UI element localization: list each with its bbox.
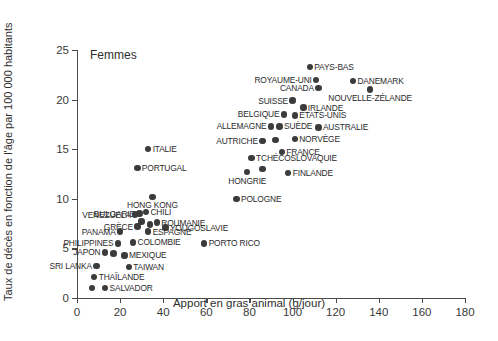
data-point [132,211,138,217]
y-tick-label: 15 [56,143,69,155]
data-point [313,77,319,83]
data-point [268,123,274,129]
data-point [126,264,132,270]
data-point [244,169,250,175]
data-point-label: SUÈDE [284,121,312,131]
data-point [285,170,291,176]
data-point [201,240,207,246]
x-tick-label: 40 [157,306,170,318]
data-point [281,111,287,117]
data-point [276,123,282,129]
x-tick [336,298,337,303]
x-tick [249,298,250,303]
data-point-label: HONGRIE [228,176,266,186]
x-tick-label: 160 [412,306,431,318]
y-tick-label: 20 [56,94,69,106]
data-point [117,228,123,234]
data-point-label: TAIWAN [133,262,164,272]
data-point-label: COLOMBIE [138,237,181,247]
scatter-chart-figure: Taux de décès en fonction de l'âge par 1… [0,0,498,341]
x-tick-label: 180 [455,306,474,318]
data-point-label: PAYS-BAS [314,62,353,72]
data-point-label: ITALIE [153,144,177,154]
data-point [145,146,151,152]
data-point [102,285,108,291]
data-point [110,250,116,256]
x-tick [206,298,207,303]
y-axis-title: Taux de décès en fonction de l'âge par 1… [2,41,14,301]
data-point [259,166,265,172]
data-point-label: CHILI [150,207,171,217]
data-point-label: CANADA [280,83,314,93]
x-tick-label: 140 [369,306,388,318]
data-point [138,218,144,224]
x-tick-label: 120 [326,306,345,318]
data-point-label: VENEZUELA [82,210,130,220]
data-point-label: SUISSE [258,96,288,106]
x-tick [293,298,294,303]
data-point [292,136,298,142]
data-point-label: TCHÉCOSLOVAQUIE [256,153,337,163]
data-point [143,209,149,215]
data-point [350,78,356,84]
x-tick [120,298,121,303]
data-point-label: SRI LANKA [49,261,91,271]
y-tick-label: 0 [63,292,69,304]
x-tick [422,298,423,303]
y-tick-label: 25 [56,44,69,56]
data-point [307,64,313,70]
y-tick [72,100,77,101]
y-tick [72,199,77,200]
data-point-label: POLOGNE [241,194,281,204]
data-point-label: PANAMA [82,227,116,237]
plot-area: 0510152025 020406080100120140160180 PAYS… [77,50,465,298]
data-point-label: PORTO RICO [209,238,260,248]
data-point [248,155,254,161]
data-point [233,196,239,202]
data-point [292,112,298,118]
x-tick-label: 80 [243,306,256,318]
data-point [154,219,160,225]
data-point-label: AUSTRALIE [323,122,368,132]
data-point [93,263,99,269]
data-point-label: MEXIQUE [129,250,167,260]
data-point [89,285,95,291]
x-tick-label: 60 [200,306,213,318]
data-point-label: DANEMARK [357,76,403,86]
data-point [272,137,278,143]
data-point-label: FINLANDE [293,168,333,178]
data-point-label: JAPON [73,247,100,257]
x-tick-label: 100 [283,306,302,318]
x-tick [379,298,380,303]
data-point [289,97,295,103]
data-point [130,239,136,245]
data-point [121,252,127,258]
data-point [315,124,321,130]
data-point-label: SALVADOR [110,283,153,293]
data-point-label: ALLEMAGNE [217,121,267,131]
data-point-label: ÉTATS-UNIS [299,110,346,120]
data-point-label: THAÏLANDE [99,272,145,282]
data-point-label: AUTRICHE [216,136,258,146]
x-tick [465,298,466,303]
data-point-label: ESPAGNE [153,227,192,237]
data-point-label: NORVÈGE [299,134,340,144]
data-point-label: PORTUGAL [142,163,187,173]
data-point [134,165,140,171]
data-point [145,228,151,234]
data-point-label: BELGIQUE [238,109,280,119]
data-point [315,85,321,91]
y-tick-label: 10 [56,193,69,205]
data-point [367,86,373,92]
x-tick [163,298,164,303]
data-point [115,240,121,246]
x-tick-label: 20 [114,306,127,318]
x-tick [77,298,78,303]
x-axis-line [77,298,465,299]
x-tick-label: 0 [74,306,80,318]
data-point [91,274,97,280]
data-point [259,138,265,144]
data-point [102,249,108,255]
data-point [149,194,155,200]
y-tick [72,50,77,51]
